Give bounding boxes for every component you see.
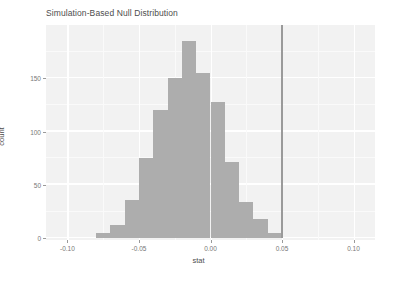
x-tick-mark	[211, 240, 212, 243]
plot-panel	[46, 25, 375, 240]
histogram-bar	[96, 233, 110, 238]
x-tick-mark	[282, 240, 283, 243]
x-tick-label: 0.05	[276, 245, 289, 252]
y-tick-mark	[43, 78, 46, 79]
y-tick-mark	[43, 238, 46, 239]
histogram-bar	[168, 78, 182, 238]
histogram-bar	[139, 158, 153, 238]
x-tick-label: 0.10	[347, 245, 360, 252]
gridline-minor-x	[103, 25, 104, 240]
x-tick-label: 0.00	[204, 245, 217, 252]
histogram-bar	[225, 162, 239, 238]
y-tick-mark	[43, 132, 46, 133]
histogram-bar	[253, 219, 267, 238]
y-tick-label: 0	[1, 235, 41, 242]
histogram-bar	[239, 202, 253, 238]
x-axis-title: stat	[0, 256, 397, 265]
y-tick-mark	[43, 185, 46, 186]
histogram-bar	[110, 225, 124, 238]
y-tick-label: 150	[1, 75, 41, 82]
chart-root: Simulation-Based Null Distribution 05010…	[0, 0, 397, 281]
gridline-major-x	[67, 25, 68, 240]
gridline-minor-x	[318, 25, 319, 240]
observed-stat-line	[281, 25, 283, 238]
x-tick-mark	[67, 240, 68, 243]
histogram-bar	[268, 233, 282, 238]
histogram-bar	[182, 41, 196, 238]
histogram-bar	[196, 73, 210, 238]
x-tick-mark	[139, 240, 140, 243]
histogram-bar	[125, 200, 139, 238]
histogram-bar	[211, 102, 225, 238]
y-tick-label: 50	[1, 181, 41, 188]
histogram-bar	[153, 110, 167, 238]
x-tick-label: -0.05	[132, 245, 147, 252]
y-axis-title: count	[0, 127, 6, 145]
x-tick-mark	[354, 240, 355, 243]
y-tick-label: 100	[1, 128, 41, 135]
gridline-major-x	[354, 25, 355, 240]
chart-title: Simulation-Based Null Distribution	[46, 8, 178, 18]
x-tick-label: -0.10	[60, 245, 75, 252]
